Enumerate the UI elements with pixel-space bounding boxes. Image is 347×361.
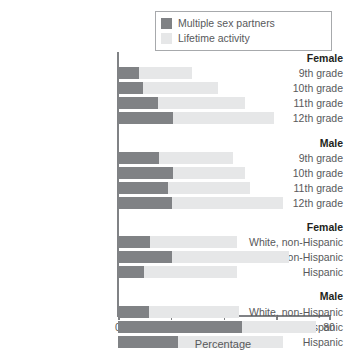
row-bars	[118, 197, 329, 209]
row-bars	[118, 266, 329, 278]
bar-multiple-sex-partners	[118, 67, 139, 79]
row-bars	[118, 236, 329, 248]
chart-row: Black, non-Hispanic	[0, 251, 347, 263]
chart-row: 10th grade	[0, 82, 347, 94]
plot-area: 020406080 Female9th grade10th grade11th …	[0, 0, 347, 361]
chart-row: 12th grade	[0, 197, 347, 209]
chart-row: 11th grade	[0, 97, 347, 109]
row-bars	[118, 112, 329, 124]
group-heading-row: Female	[0, 52, 347, 64]
bar-multiple-sex-partners	[118, 321, 242, 333]
bar-multiple-sex-partners	[118, 97, 158, 109]
bar-multiple-sex-partners	[118, 182, 168, 194]
row-bars	[118, 167, 329, 179]
chart-row: Black, non-Hispanic	[0, 321, 347, 333]
group-heading-row: Male	[0, 290, 347, 302]
bar-multiple-sex-partners	[118, 251, 172, 263]
row-bars	[118, 321, 329, 333]
group-heading-label: Female	[230, 52, 347, 64]
row-bars	[118, 306, 329, 318]
row-bars	[118, 152, 329, 164]
bar-multiple-sex-partners	[118, 266, 144, 278]
row-bars	[118, 82, 329, 94]
x-axis-title: Percentage	[195, 338, 251, 350]
chart-row: 9th grade	[0, 152, 347, 164]
bar-multiple-sex-partners	[118, 197, 172, 209]
bar-multiple-sex-partners	[118, 236, 150, 248]
chart-row: 12th grade	[0, 112, 347, 124]
bar-multiple-sex-partners	[118, 112, 173, 124]
chart-row: White, non-Hispanic	[0, 306, 347, 318]
group-heading-row: Female	[0, 221, 347, 233]
group-heading-row: Male	[0, 137, 347, 149]
bar-multiple-sex-partners	[118, 82, 143, 94]
bar-multiple-sex-partners	[118, 167, 173, 179]
bar-multiple-sex-partners	[118, 336, 178, 348]
row-bars	[118, 251, 329, 263]
row-bars	[118, 67, 329, 79]
group-heading-label: Female	[230, 221, 347, 233]
bar-multiple-sex-partners	[118, 152, 159, 164]
group-heading-label: Male	[230, 290, 347, 302]
row-bars	[118, 97, 329, 109]
chart-row: 11th grade	[0, 182, 347, 194]
chart-row: 10th grade	[0, 167, 347, 179]
bar-multiple-sex-partners	[118, 306, 149, 318]
group-heading-label: Male	[230, 137, 347, 149]
bar-chart: Multiple sex partnersLifetime activity 0…	[0, 0, 347, 361]
chart-row: 9th grade	[0, 67, 347, 79]
row-bars	[118, 182, 329, 194]
chart-row: White, non-Hispanic	[0, 236, 347, 248]
chart-row: Hispanic	[0, 266, 347, 278]
chart-row: Hispanic	[0, 336, 347, 348]
